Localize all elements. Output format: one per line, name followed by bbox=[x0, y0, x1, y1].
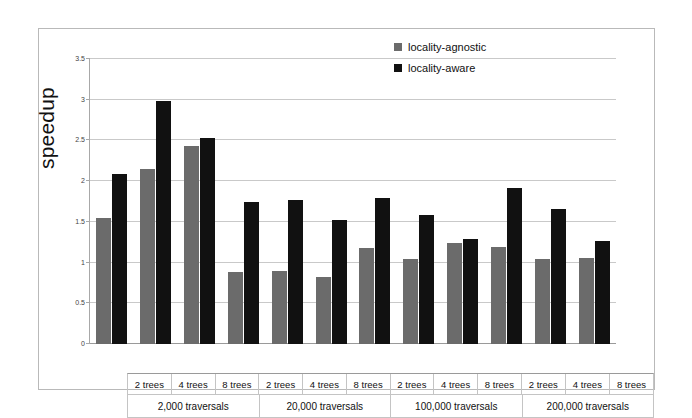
category-axis-row: 2 trees4 trees8 trees2 trees4 trees8 tre… bbox=[127, 373, 654, 395]
y-tick-label: 2.5 bbox=[75, 136, 85, 143]
x-group-label: 200,000 traversals bbox=[523, 395, 654, 417]
y-tick-label: 3.5 bbox=[75, 55, 85, 62]
bar-locality-aware bbox=[375, 198, 390, 344]
bar-group bbox=[222, 59, 354, 344]
bar-locality-aware bbox=[200, 138, 215, 344]
y-axis-title: speedup bbox=[35, 49, 59, 169]
x-tick-label: 4 trees bbox=[434, 374, 478, 394]
x-tick-label: 4 trees bbox=[172, 374, 216, 394]
bar-locality-agnostic bbox=[447, 243, 462, 344]
bar-locality-agnostic bbox=[184, 146, 199, 344]
bar-locality-aware bbox=[551, 209, 566, 344]
bar-pair bbox=[572, 59, 616, 344]
bar-locality-aware bbox=[507, 188, 522, 344]
y-tick-label: 1 bbox=[81, 258, 85, 265]
bar-locality-agnostic bbox=[579, 258, 594, 344]
bar-pair bbox=[353, 59, 397, 344]
bar-pair bbox=[309, 59, 353, 344]
group-axis-row: 2,000 traversals20,000 traversals100,000… bbox=[127, 395, 654, 418]
bar-pair bbox=[397, 59, 441, 344]
x-group-label: 100,000 traversals bbox=[391, 395, 523, 417]
legend-item: locality-aware bbox=[394, 62, 486, 74]
x-tick-label: 8 trees bbox=[610, 374, 653, 394]
bar-pair bbox=[441, 59, 485, 344]
bar-locality-aware bbox=[419, 215, 434, 344]
bar-locality-agnostic bbox=[316, 277, 331, 344]
y-tick-label: 2 bbox=[81, 177, 85, 184]
bar-locality-agnostic bbox=[272, 271, 287, 344]
bar-pair bbox=[265, 59, 309, 344]
y-tick-label: 1.5 bbox=[75, 217, 85, 224]
plot-area: 00.511.522.533.5 bbox=[89, 59, 616, 344]
legend-label: locality-aware bbox=[408, 62, 475, 74]
y-tick-label: 0.5 bbox=[75, 299, 85, 306]
bar-group bbox=[485, 59, 617, 344]
y-tick-label: 3 bbox=[81, 95, 85, 102]
category-group: 2 trees4 trees8 trees bbox=[522, 374, 653, 394]
legend-swatch-icon bbox=[394, 43, 402, 51]
bar-locality-aware bbox=[156, 101, 171, 344]
bar-locality-aware bbox=[288, 200, 303, 344]
x-tick-label: 2 trees bbox=[391, 374, 435, 394]
bar-locality-aware bbox=[332, 220, 347, 344]
bar-locality-agnostic bbox=[228, 272, 243, 344]
legend-item: locality-agnostic bbox=[394, 41, 486, 53]
bar-locality-agnostic bbox=[403, 259, 418, 345]
bar-group bbox=[90, 59, 222, 344]
bar-locality-aware bbox=[595, 241, 610, 344]
category-group: 2 trees4 trees8 trees bbox=[128, 374, 259, 394]
category-group: 2 trees4 trees8 trees bbox=[391, 374, 522, 394]
x-tick-label: 4 trees bbox=[566, 374, 610, 394]
bar-group bbox=[353, 59, 485, 344]
bar-pair bbox=[485, 59, 529, 344]
x-tick-label: 2 trees bbox=[259, 374, 303, 394]
x-tick-label: 2 trees bbox=[522, 374, 566, 394]
bar-pair bbox=[178, 59, 222, 344]
x-tick-label: 4 trees bbox=[303, 374, 347, 394]
chart-figure: speedup 00.511.522.533.5 2 trees4 trees8… bbox=[38, 28, 655, 390]
bar-locality-aware bbox=[244, 202, 259, 345]
x-group-label: 2,000 traversals bbox=[128, 395, 260, 417]
bar-pair bbox=[222, 59, 266, 344]
bar-pair bbox=[528, 59, 572, 344]
x-group-label: 20,000 traversals bbox=[260, 395, 392, 417]
bar-series-container bbox=[90, 59, 616, 344]
y-tick-label: 0 bbox=[81, 340, 85, 347]
bar-locality-agnostic bbox=[535, 259, 550, 345]
bar-locality-agnostic bbox=[96, 218, 111, 344]
legend-label: locality-agnostic bbox=[408, 41, 486, 53]
bar-locality-agnostic bbox=[359, 248, 374, 344]
x-tick-label: 8 trees bbox=[216, 374, 260, 394]
bar-locality-agnostic bbox=[140, 169, 155, 344]
x-tick-label: 8 trees bbox=[478, 374, 522, 394]
legend-swatch-icon bbox=[394, 64, 402, 72]
bar-locality-aware bbox=[112, 174, 127, 344]
bar-locality-agnostic bbox=[491, 247, 506, 344]
x-tick-label: 2 trees bbox=[128, 374, 172, 394]
x-tick-label: 8 trees bbox=[347, 374, 391, 394]
bar-pair bbox=[134, 59, 178, 344]
category-group: 2 trees4 trees8 trees bbox=[259, 374, 390, 394]
bar-locality-aware bbox=[463, 239, 478, 344]
chart-legend: locality-agnosticlocality-aware bbox=[394, 41, 486, 74]
bar-pair bbox=[90, 59, 134, 344]
